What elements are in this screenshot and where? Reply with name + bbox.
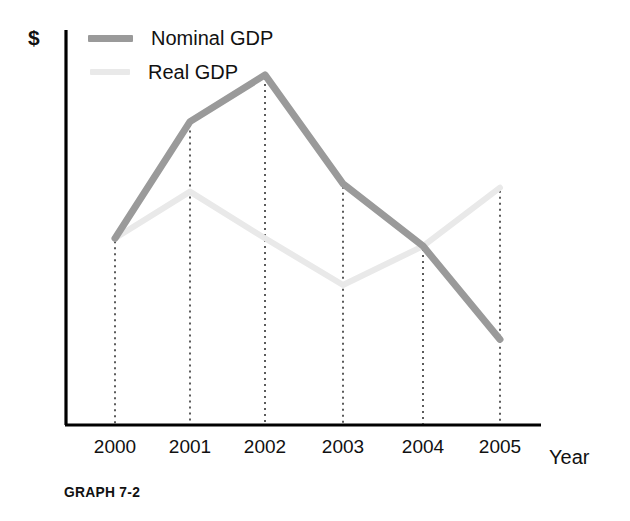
legend-label-real-gdp: Real GDP	[148, 61, 238, 84]
legend-swatch-nominal-gdp	[88, 35, 133, 42]
x-tick-label-2000: 2000	[83, 436, 147, 458]
y-axis-title: $	[28, 26, 40, 50]
x-axis-title: Year	[549, 446, 589, 469]
x-tick-label-2004: 2004	[391, 436, 455, 458]
legend-item-real-gdp: Real GDP	[90, 59, 238, 85]
x-tick-label-2001: 2001	[158, 436, 222, 458]
x-tick-label-2002: 2002	[233, 436, 297, 458]
legend-item-nominal-gdp: Nominal GDP	[88, 25, 273, 51]
chart-figure: $ Year 2000 2001 2002 2003 2004 2005 Nom…	[0, 0, 630, 521]
legend-swatch-real-gdp	[90, 69, 130, 75]
x-tick-label-2005: 2005	[468, 436, 532, 458]
figure-caption: GRAPH 7-2	[64, 483, 140, 500]
x-tick-label-2003: 2003	[311, 436, 375, 458]
series-line-nominal-gdp	[115, 75, 500, 340]
legend-label-nominal-gdp: Nominal GDP	[151, 27, 273, 50]
